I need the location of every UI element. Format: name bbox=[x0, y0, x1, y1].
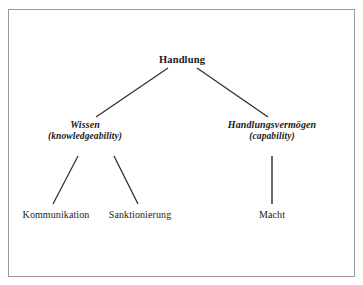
tree-node-handlung-label: Handlung bbox=[159, 54, 205, 65]
tree-node-sanktionierung: Sanktionierung bbox=[109, 209, 172, 221]
tree-node-handlungsvermoegen-label: Handlungsvermögen bbox=[228, 119, 316, 130]
tree-node-wissen-sublabel: (knowledgeability) bbox=[48, 130, 122, 141]
tree-node-sanktionierung-label: Sanktionierung bbox=[109, 209, 172, 220]
tree-node-macht-label: Macht bbox=[259, 209, 285, 220]
tree-node-kommunikation: Kommunikation bbox=[23, 209, 90, 221]
tree-node-wissen: Wissen (knowledgeability) bbox=[48, 119, 122, 142]
tree-node-macht: Macht bbox=[259, 209, 285, 221]
diagram-frame-border bbox=[8, 9, 355, 277]
diagram-canvas: Handlung Wissen (knowledgeability) Handl… bbox=[0, 0, 363, 285]
tree-node-wissen-label: Wissen bbox=[70, 119, 100, 130]
tree-node-kommunikation-label: Kommunikation bbox=[23, 209, 90, 220]
tree-node-handlungsvermoegen-sublabel: (capability) bbox=[228, 130, 316, 141]
tree-node-handlung: Handlung bbox=[159, 54, 205, 66]
tree-node-handlungsvermoegen: Handlungsvermögen (capability) bbox=[228, 119, 316, 142]
